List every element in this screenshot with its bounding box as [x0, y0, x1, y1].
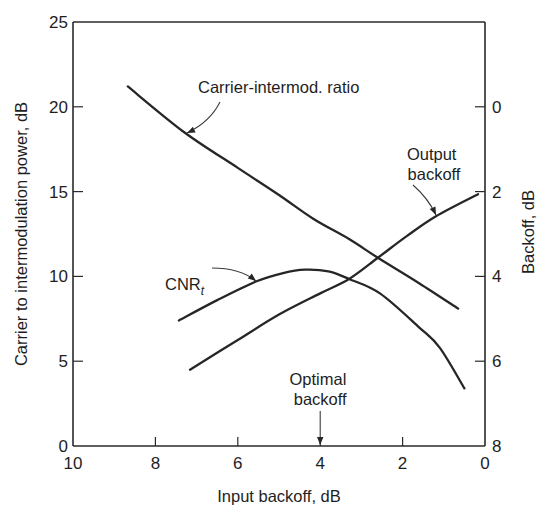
x-tick-label: 4	[315, 454, 324, 473]
annotation-cnr: CNRt	[165, 275, 205, 298]
annotations: Carrier-intermod. ratio CNRt Output back…	[165, 78, 461, 444]
x-tick-label: 10	[64, 454, 83, 473]
y2-tick-label: 0	[492, 98, 501, 117]
y2-tick-label: 6	[492, 352, 501, 371]
y-tick-label: 20	[49, 98, 68, 117]
left-y-axis-title: Carrier to intermodulation power, dB	[12, 102, 30, 366]
x-tick-label: 2	[398, 454, 407, 473]
y-tick-label: 10	[49, 267, 68, 286]
annotation-output-line2: backoff	[408, 165, 461, 183]
y-tick-label: 0	[59, 437, 68, 456]
annotation-output-line1: Output	[407, 145, 457, 163]
annotation-cnr-main: CNR	[165, 275, 201, 293]
annotation-optimal-backoff: Optimal backoff	[289, 370, 350, 408]
chart: 1086420051015202502468 Input backoff, dB…	[0, 0, 549, 515]
series-lines	[128, 86, 478, 388]
arrowhead-output-backoff	[430, 206, 436, 215]
x-tick-label: 6	[233, 454, 242, 473]
arrowhead-cnr	[248, 273, 256, 281]
annotation-optimal-line1: Optimal	[289, 370, 346, 388]
y-tick-label: 15	[49, 183, 68, 202]
annotation-optimal-line2: backoff	[294, 390, 347, 408]
x-tick-label: 0	[480, 454, 489, 473]
x-tick-label: 8	[151, 454, 160, 473]
annotation-cnr-subscript: t	[201, 284, 205, 298]
x-axis-title: Input backoff, dB	[217, 487, 341, 505]
annotation-output-backoff: Output backoff	[407, 145, 461, 183]
annotation-carrier-intermod: Carrier-intermod. ratio	[198, 78, 359, 96]
y-tick-label: 25	[49, 13, 68, 32]
arrowhead-optimal-backoff	[317, 437, 323, 445]
y-tick-label: 5	[59, 352, 68, 371]
y2-tick-label: 4	[492, 267, 501, 286]
leader-cnr	[212, 268, 256, 281]
y2-tick-label: 2	[492, 183, 501, 202]
y2-tick-label: 8	[492, 437, 501, 456]
right-y-axis-title: Backoff, dB	[519, 190, 537, 274]
arrowhead-carrier-intermod	[187, 127, 196, 133]
